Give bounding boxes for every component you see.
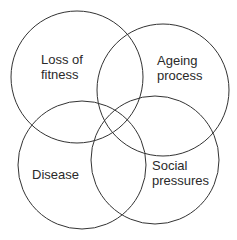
label-line: pressures <box>152 173 209 188</box>
label-social-pressures: Social pressures <box>152 158 209 188</box>
label-line: process <box>157 68 203 83</box>
label-line: Loss of <box>41 52 83 67</box>
label-line: Ageing <box>157 53 203 68</box>
label-loss-of-fitness: Loss of fitness <box>41 52 83 82</box>
venn-diagram: Loss of fitness Ageing process Disease S… <box>0 0 237 240</box>
label-line: Disease <box>32 167 79 182</box>
label-disease: Disease <box>32 167 79 182</box>
circle-ageing-process <box>97 24 229 156</box>
label-ageing-process: Ageing process <box>157 53 203 83</box>
venn-circles <box>0 0 237 240</box>
label-line: fitness <box>41 67 83 82</box>
label-line: Social <box>152 158 209 173</box>
